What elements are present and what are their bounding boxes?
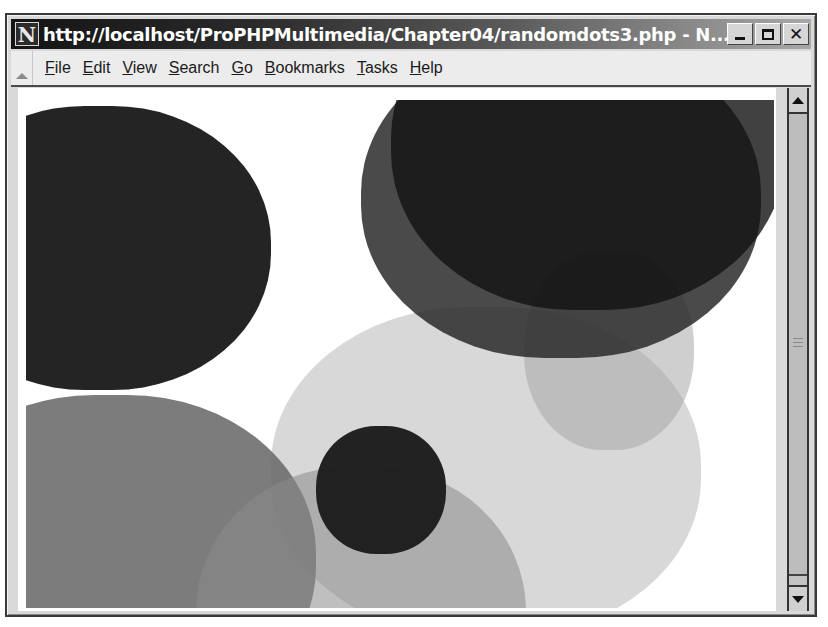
dot-dark-small-center xyxy=(316,426,446,554)
arrow-down-icon xyxy=(792,596,804,603)
maximize-icon xyxy=(762,29,774,40)
minimize-icon xyxy=(735,37,745,40)
thumb-grip-line xyxy=(793,342,803,343)
thumb-grip-line xyxy=(793,346,803,347)
menu-help[interactable]: Help xyxy=(410,59,443,77)
arrow-up-icon xyxy=(792,97,804,104)
random-dots-canvas xyxy=(26,100,774,608)
close-icon: ✕ xyxy=(789,24,803,44)
menu-view[interactable]: View xyxy=(122,59,156,77)
page-content xyxy=(18,88,776,611)
scroll-down-button[interactable] xyxy=(789,585,807,611)
close-button[interactable]: ✕ xyxy=(783,23,809,45)
menu-bar: File Edit View Search Go Bookmarks Tasks… xyxy=(11,51,811,87)
title-bar[interactable]: N http://localhost/ProPHPMultimedia/Chap… xyxy=(11,19,811,49)
minimize-button[interactable] xyxy=(727,23,753,45)
maximize-button[interactable] xyxy=(755,23,781,45)
menu-tasks[interactable]: Tasks xyxy=(357,59,398,77)
window-title: http://localhost/ProPHPMultimedia/Chapte… xyxy=(43,24,727,45)
vertical-scrollbar[interactable] xyxy=(787,88,809,611)
dot-dark-top-left xyxy=(26,106,271,390)
scroll-thumb[interactable] xyxy=(789,114,807,576)
menu-go[interactable]: Go xyxy=(231,59,252,77)
collapse-triangle-icon xyxy=(16,73,28,79)
menu-edit[interactable]: Edit xyxy=(83,59,111,77)
menu-search[interactable]: Search xyxy=(169,59,220,77)
menu-file[interactable]: File xyxy=(45,59,71,77)
menu-bookmarks[interactable]: Bookmarks xyxy=(265,59,345,77)
thumb-grip-line xyxy=(793,338,803,339)
toolbar-collapse-grip[interactable] xyxy=(11,51,33,85)
scroll-up-button[interactable] xyxy=(789,88,807,114)
netscape-app-icon[interactable]: N xyxy=(15,22,39,46)
